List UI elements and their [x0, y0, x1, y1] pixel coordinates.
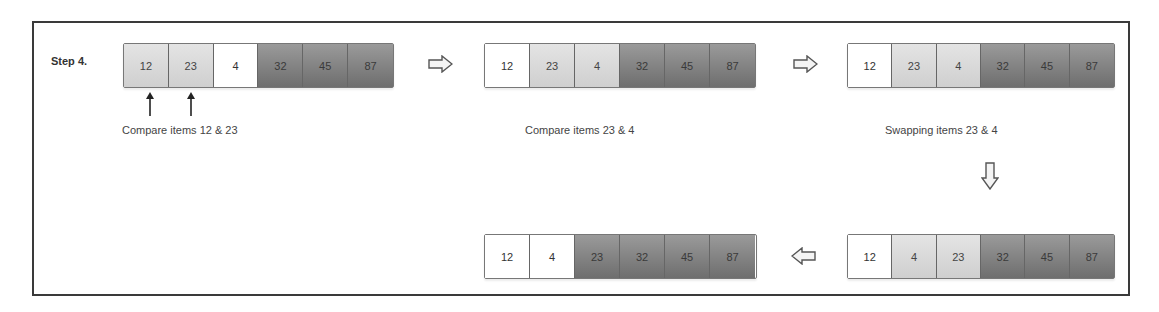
array-cell: 45 — [665, 235, 710, 278]
array-cell: 23 — [169, 44, 214, 87]
array-cell: 32 — [981, 235, 1025, 278]
array-cell: 32 — [258, 44, 303, 87]
array-cell: 4 — [214, 44, 259, 87]
array-cell: 12 — [485, 44, 530, 87]
pointer-up-arrow-icon — [186, 92, 196, 116]
caption-stage-3: Swapping items 23 & 4 — [885, 124, 998, 136]
caption-stage-2: Compare items 23 & 4 — [525, 124, 634, 136]
array-cell: 87 — [710, 44, 755, 87]
arrow-right-icon — [428, 55, 453, 73]
array-cell: 4 — [937, 44, 981, 87]
pointer-up-arrow-icon — [145, 92, 155, 116]
array-cell: 4 — [575, 44, 620, 87]
array-cell: 87 — [1070, 44, 1114, 87]
array-stage-5: 12423324587 — [484, 234, 757, 279]
array-cell: 45 — [665, 44, 710, 87]
array-cell: 12 — [848, 44, 892, 87]
array-stage-2: 12234324587 — [484, 43, 756, 88]
array-cell: 23 — [575, 235, 620, 278]
array-cell: 12 — [124, 44, 169, 87]
array-cell: 23 — [530, 44, 575, 87]
array-cell: 45 — [303, 44, 348, 87]
array-cell: 12 — [485, 235, 530, 278]
array-cell: 12 — [848, 235, 892, 278]
array-cell: 4 — [530, 235, 575, 278]
array-cell: 87 — [348, 44, 393, 87]
arrow-down-icon — [981, 162, 999, 190]
array-cell: 87 — [1070, 235, 1114, 278]
caption-stage-1: Compare items 12 & 23 — [122, 124, 238, 136]
array-cell: 23 — [937, 235, 981, 278]
array-cell: 32 — [981, 44, 1025, 87]
array-cell: 45 — [1025, 235, 1069, 278]
array-cell: 4 — [892, 235, 936, 278]
arrow-right-icon — [793, 55, 818, 73]
step-label: Step 4. — [51, 55, 87, 67]
array-stage-4: 12423324587 — [847, 234, 1115, 279]
array-stage-3: 12234324587 — [847, 43, 1115, 88]
array-cell: 45 — [1025, 44, 1069, 87]
array-cell: 32 — [620, 44, 665, 87]
array-cell: 23 — [892, 44, 936, 87]
array-cell: 87 — [710, 235, 755, 278]
array-cell: 32 — [620, 235, 665, 278]
array-stage-1: 12234324587 — [123, 43, 394, 88]
arrow-left-icon — [791, 247, 816, 265]
